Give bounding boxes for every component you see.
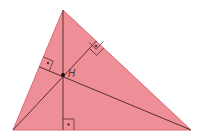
triangle	[13, 10, 191, 130]
orthocenter-label: H	[68, 68, 76, 79]
orthocenter-diagram: H	[0, 0, 198, 138]
orthocenter-point	[61, 73, 65, 77]
